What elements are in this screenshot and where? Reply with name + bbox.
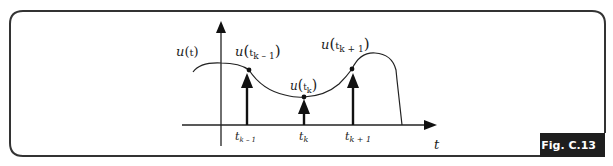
impulse-arrow-icon	[347, 73, 359, 88]
sample-dot	[247, 68, 252, 73]
label-u-tk: u(tk)	[290, 77, 317, 95]
sample-dot	[350, 67, 355, 72]
figure-caption: Fig. C.13	[541, 139, 596, 152]
impulse-tk	[298, 95, 310, 125]
sample-dot	[302, 95, 307, 100]
tick-label-tk-minus-1: tk – 1	[235, 130, 256, 144]
label-u-t: u(t)	[176, 44, 199, 59]
impulse-arrow-icon	[298, 99, 310, 114]
label-u-tk-plus-1: u(tk + 1)	[321, 35, 370, 54]
x-axis-label: t	[434, 137, 440, 152]
impulse-arrow-icon	[241, 73, 253, 88]
x-axis-arrow-icon	[424, 120, 437, 130]
figure-caption-tab: Fig. C.13	[540, 133, 605, 157]
y-axis-arrow-icon	[216, 21, 226, 33]
label-u-tk-minus-1: u(tk – 1)	[235, 42, 281, 61]
figure-c13: u(t) u(tk – 1) u(tk) u(tk + 1) tk – 1 tk…	[0, 0, 613, 166]
impulse-tk-minus-1	[241, 68, 253, 125]
diagram-canvas: u(t) u(tk – 1) u(tk) u(tk + 1) tk – 1 tk…	[0, 0, 613, 166]
impulse-tk-plus-1	[347, 67, 359, 125]
tick-label-tk: tk	[299, 130, 308, 144]
tick-label-tk-plus-1: tk + 1	[345, 130, 371, 144]
